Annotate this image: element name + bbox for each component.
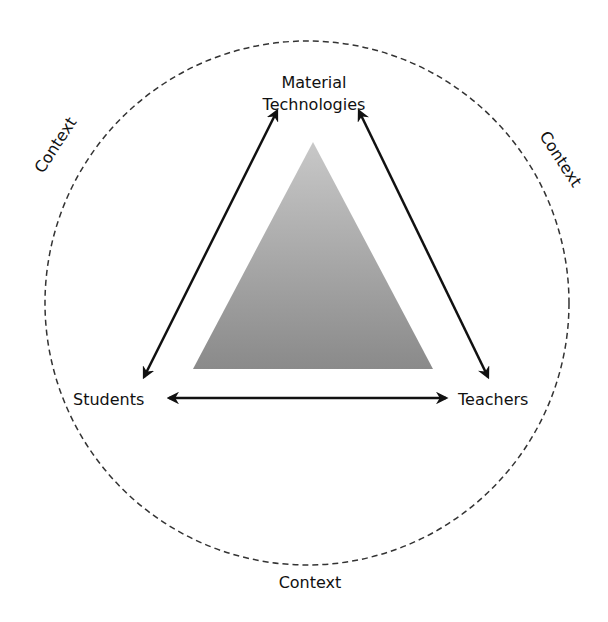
context-label-upper-right: Context bbox=[536, 128, 586, 191]
label-technologies: Technologies bbox=[262, 95, 366, 114]
context-label-bottom: Context bbox=[279, 573, 342, 592]
label-material: Material bbox=[282, 73, 347, 92]
context-label-upper-left: Context bbox=[30, 114, 80, 177]
label-teachers: Teachers bbox=[457, 390, 528, 409]
central-triangle bbox=[193, 142, 433, 369]
didactic-triangle-diagram: Material Technologies Students Teachers … bbox=[0, 0, 608, 622]
label-students: Students bbox=[73, 390, 144, 409]
